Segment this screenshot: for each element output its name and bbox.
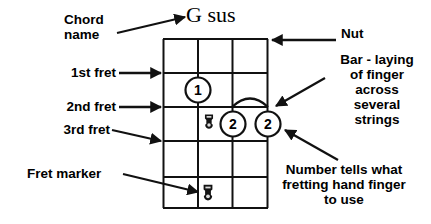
fretboard-grid (163, 39, 268, 208)
fret-marker-icon-lower (204, 185, 213, 201)
label-3rd-fret: 3rd fret (28, 122, 110, 137)
leader-3rd-fret (112, 130, 161, 141)
finger-dot-2a-label: 2 (223, 117, 243, 131)
callout-number: Number tells what fretting hand finger t… (258, 162, 430, 207)
leader-chord-name (117, 17, 185, 33)
callout-fret-marker: Fret marker (27, 166, 101, 181)
leader-number (285, 130, 338, 160)
label-2nd-fret: 2nd fret (30, 99, 116, 114)
chord-name-heading: G sus (186, 2, 236, 28)
bar-arc (232, 99, 268, 108)
callout-nut: Nut (341, 26, 364, 41)
callout-bar: Bar - laying of finger across several st… (325, 52, 429, 128)
chord-diagram-figure: G sus Chord name 1st fret 2nd fret 3rd f… (0, 0, 431, 224)
fret-marker-icon-upper (205, 114, 213, 128)
callout-chord-name: Chord name (64, 12, 104, 42)
finger-dot-1-label: 1 (188, 83, 208, 97)
leader-bar (276, 78, 325, 106)
label-1st-fret: 1st fret (34, 65, 116, 80)
finger-dot-2b-label: 2 (258, 117, 278, 131)
